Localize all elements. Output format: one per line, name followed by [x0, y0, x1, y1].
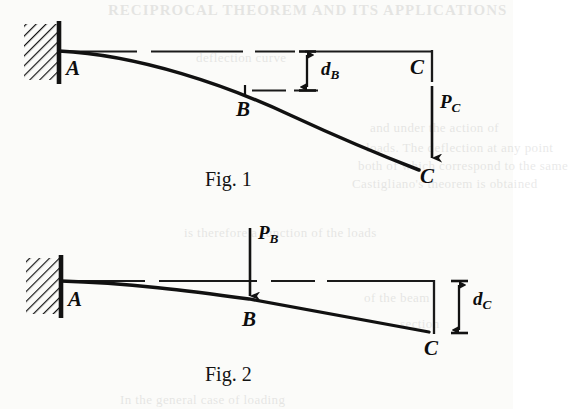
- fig-1-dimension-label-db: dB: [321, 58, 339, 83]
- fig-2-label-a: A: [68, 287, 82, 312]
- fig-1-drawing: [24, 21, 432, 170]
- fig-1-reference-axis: [59, 50, 432, 82]
- dim-symbol-d: d: [321, 58, 331, 79]
- fig-1-label-b: B: [236, 97, 250, 122]
- load-subscript-b: B: [270, 231, 279, 246]
- fig-1-label-c-deflected: C: [420, 164, 434, 189]
- fig-2-fixed-support: [26, 255, 61, 318]
- load-subscript-c: C: [452, 100, 461, 115]
- fig-2-label-c: C: [424, 336, 438, 361]
- fig-2-dimension-dc: [451, 281, 468, 333]
- fig-2-caption: Fig. 2: [205, 363, 252, 386]
- fig-1-load-label-pc: PC: [440, 91, 460, 116]
- fig-2-load-label-pb: PB: [258, 222, 278, 247]
- fig-1-label-c-undeflected: C: [410, 55, 424, 80]
- fig-1-dimension-db: [299, 52, 316, 91]
- dim-symbol-d: d: [473, 288, 483, 309]
- fig-1-caption: Fig. 1: [205, 168, 252, 191]
- load-symbol-p: P: [258, 222, 270, 243]
- dim-subscript-c: C: [483, 297, 492, 312]
- fig-1-label-a: A: [66, 56, 80, 81]
- fig-2-label-b: B: [242, 307, 256, 332]
- fig-2-dimension-label-dc: dC: [473, 288, 491, 313]
- load-symbol-p: P: [440, 91, 452, 112]
- fig-1-fixed-support: [24, 21, 59, 84]
- dim-subscript-b: B: [331, 67, 340, 82]
